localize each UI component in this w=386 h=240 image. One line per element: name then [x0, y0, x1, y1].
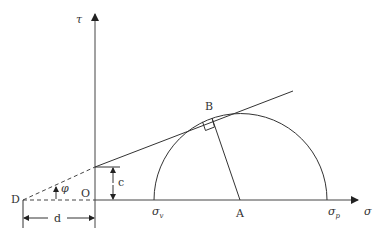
- radius-line: [212, 118, 240, 200]
- angle-phi-label: φ: [61, 182, 69, 195]
- sigma-v-label: σv: [152, 205, 164, 220]
- point-b-label: B: [205, 100, 213, 113]
- sigma-axis-label: σ: [364, 205, 372, 218]
- origin-label: O: [81, 187, 90, 200]
- mohr-coulomb-diagram: τ σ O D B A c d φ σv σp: [0, 0, 386, 240]
- sigma-p-label: σp: [328, 205, 341, 220]
- point-d-label: D: [11, 193, 20, 206]
- tau-axis-label: τ: [76, 13, 83, 26]
- cohesion-label: c: [118, 176, 124, 189]
- distance-label: d: [54, 212, 61, 225]
- failure-envelope: [95, 91, 293, 167]
- point-a-label: A: [235, 207, 245, 220]
- mohr-circle: [154, 114, 327, 200]
